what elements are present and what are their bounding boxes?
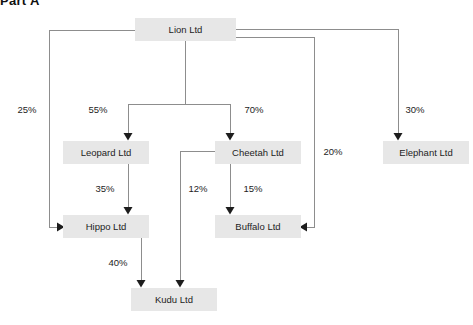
edge-lion-elephant: 30% [236, 29, 425, 141]
node-kudu[interactable]: Kudu Ltd [131, 288, 217, 311]
edge-cheetah-buffalo-arrowhead [226, 207, 235, 215]
edge-lion-buffalo-line [236, 37, 314, 227]
edge-lion-hippo-label: 25% [17, 104, 37, 115]
node-hippo-label: Hippo Ltd [86, 221, 127, 232]
edge-cheetah-kudu: 12% [176, 151, 216, 288]
edge-cheetah-buffalo-label: 15% [243, 183, 263, 194]
edge-hippo-kudu: 40% [108, 238, 145, 288]
edge-cheetah-kudu-line [180, 151, 215, 280]
edge-hippo-kudu-arrowhead [137, 280, 146, 288]
edge-lion-leopard-line [128, 41, 185, 133]
edge-lion-leopard-arrowhead [124, 133, 133, 141]
edge-hippo-kudu-label: 40% [108, 257, 128, 268]
node-hippo[interactable]: Hippo Ltd [63, 215, 149, 238]
edge-lion-leopard-label: 55% [88, 104, 108, 115]
node-buffalo-label: Buffalo Ltd [235, 221, 280, 232]
edge-lion-elephant-arrowhead [394, 133, 403, 141]
edge-cheetah-kudu-label: 12% [188, 183, 208, 194]
edge-lion-hippo: 25% [17, 30, 135, 232]
node-kudu-label: Kudu Ltd [155, 294, 193, 305]
edge-lion-cheetah-line [185, 41, 230, 133]
edge-leopard-hippo: 35% [95, 164, 132, 215]
edge-cheetah-kudu-arrowhead [176, 280, 185, 288]
diagram-canvas: Part A 25% 55% 70% 20% [0, 0, 473, 325]
node-cheetah-label: Cheetah Ltd [232, 147, 284, 158]
edge-cheetah-buffalo: 15% [226, 164, 264, 215]
edge-lion-cheetah: 70% [185, 41, 264, 141]
node-leopard[interactable]: Leopard Ltd [63, 141, 149, 164]
edge-lion-hippo-line [49, 30, 135, 227]
node-elephant[interactable]: Elephant Ltd [383, 141, 469, 164]
node-leopard-label: Leopard Ltd [81, 147, 132, 158]
edge-lion-elephant-label: 30% [405, 104, 425, 115]
edge-leopard-hippo-label: 35% [95, 183, 115, 194]
edge-lion-leopard: 55% [88, 41, 185, 141]
node-lion[interactable]: Lion Ltd [135, 18, 236, 41]
edge-leopard-hippo-arrowhead [124, 207, 133, 215]
edge-lion-buffalo: 20% [236, 37, 343, 232]
edge-lion-elephant-line [236, 29, 398, 133]
ownership-structure-diagram: 25% 55% 70% 20% 30% [0, 0, 473, 325]
node-cheetah[interactable]: Cheetah Ltd [215, 141, 301, 164]
edge-lion-cheetah-arrowhead [226, 133, 235, 141]
node-lion-label: Lion Ltd [169, 24, 203, 35]
node-buffalo[interactable]: Buffalo Ltd [215, 215, 301, 238]
edge-lion-cheetah-label: 70% [244, 104, 264, 115]
node-elephant-label: Elephant Ltd [399, 147, 452, 158]
edge-lion-buffalo-label: 20% [323, 146, 343, 157]
